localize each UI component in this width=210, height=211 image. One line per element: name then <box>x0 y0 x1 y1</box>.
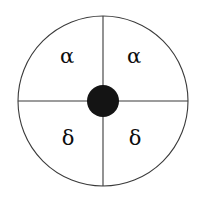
quadrant-label-top-right: α <box>114 46 154 67</box>
quadrant-label-top-left: α <box>47 46 87 67</box>
quadrant-circle-diagram <box>0 0 210 211</box>
quadrant-label-bottom-right: δ <box>115 128 155 149</box>
center-hub-circle <box>87 85 119 117</box>
quadrant-label-bottom-left: δ <box>48 128 88 149</box>
figure-container: α α δ δ <box>0 0 210 211</box>
